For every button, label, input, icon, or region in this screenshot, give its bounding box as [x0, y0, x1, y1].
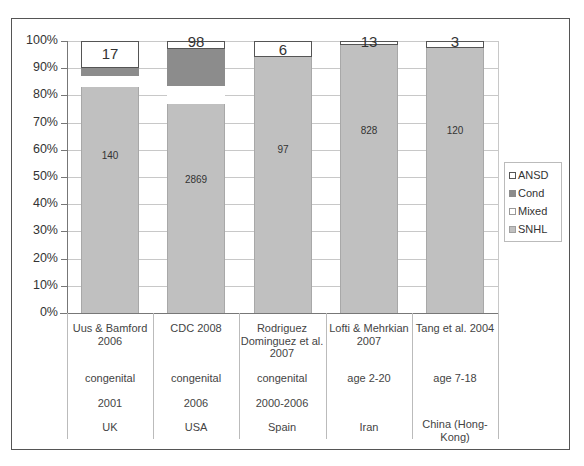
- legend-item-mixed: Mixed: [509, 204, 547, 218]
- y-tick-label: 70%: [18, 115, 58, 129]
- data-label: 13: [340, 33, 398, 50]
- y-axis: [67, 41, 68, 313]
- table-cell: Tang et al. 2004: [412, 322, 498, 335]
- legend-item-snhl: SNHL: [509, 222, 547, 236]
- data-label: 6: [254, 41, 312, 58]
- table-cell: CDC 2008: [153, 322, 239, 335]
- legend-swatch-icon: [509, 226, 516, 233]
- y-tick-label: 40%: [18, 196, 58, 210]
- bar-segment-snhl: [81, 87, 139, 313]
- table-cell: Uus & Bamford 2006: [67, 322, 153, 347]
- plot-border-right: [498, 41, 499, 313]
- table-cell: 2001: [67, 397, 153, 410]
- legend-swatch-icon: [509, 208, 516, 215]
- table-cell: Spain: [239, 421, 325, 434]
- x-axis: [60, 313, 498, 314]
- bar-segment-snhl: [254, 57, 312, 313]
- table-cell: Rodriguez Dominguez et al. 2007: [239, 322, 325, 360]
- bar-segment-mixed: [81, 76, 139, 87]
- table-cell: Lofti & Mehrkian 2007: [326, 322, 412, 347]
- table-cell: 2000-2006: [239, 397, 325, 410]
- data-label: 120: [426, 125, 484, 136]
- data-label: 3: [426, 33, 484, 50]
- bar-segment-snhl: [167, 104, 225, 313]
- table-cell: Iran: [326, 421, 412, 434]
- table-cell: 2006: [153, 397, 239, 410]
- table-cell: China (Hong-Kong): [412, 418, 498, 443]
- table-cell: congenital: [239, 372, 325, 385]
- y-tick-label: 10%: [18, 278, 58, 292]
- data-label: 98: [167, 33, 225, 50]
- table-cell: UK: [67, 421, 153, 434]
- legend-swatch-icon: [509, 190, 516, 197]
- y-tick-label: 30%: [18, 223, 58, 237]
- y-tick-label: 80%: [18, 87, 58, 101]
- bar-segment-cond: [167, 49, 225, 86]
- legend-swatch-icon: [509, 172, 516, 179]
- y-tick-label: 60%: [18, 142, 58, 156]
- table-cell: congenital: [67, 372, 153, 385]
- legend-label: SNHL: [518, 223, 547, 235]
- data-label: 2869: [167, 174, 225, 185]
- legend: ANSDCondMixedSNHL: [504, 162, 562, 242]
- table-cell: age 7-18: [412, 372, 498, 385]
- bar-segment-snhl: [426, 48, 484, 313]
- table-cell: age 2-20: [326, 372, 412, 385]
- table-column-divider: [498, 313, 499, 439]
- y-tick-label: 50%: [18, 169, 58, 183]
- legend-item-cond: Cond: [509, 186, 544, 200]
- y-tick-label: 100%: [18, 33, 58, 47]
- legend-label: Cond: [518, 187, 544, 199]
- legend-item-ansd: ANSD: [509, 168, 549, 182]
- bar-segment-cond: [81, 68, 139, 76]
- legend-label: Mixed: [518, 205, 547, 217]
- y-tick-label: 90%: [18, 60, 58, 74]
- table-cell: USA: [153, 421, 239, 434]
- table-cell: congenital: [153, 372, 239, 385]
- data-label: 17: [81, 45, 139, 62]
- data-label: 140: [81, 150, 139, 161]
- y-tick-label: 20%: [18, 251, 58, 265]
- bar-segment-snhl: [340, 45, 398, 313]
- legend-label: ANSD: [518, 169, 549, 181]
- data-label: 828: [340, 125, 398, 136]
- data-label: 97: [254, 144, 312, 155]
- bar-segment-mixed: [167, 86, 225, 104]
- y-tick-label: 0%: [18, 305, 58, 319]
